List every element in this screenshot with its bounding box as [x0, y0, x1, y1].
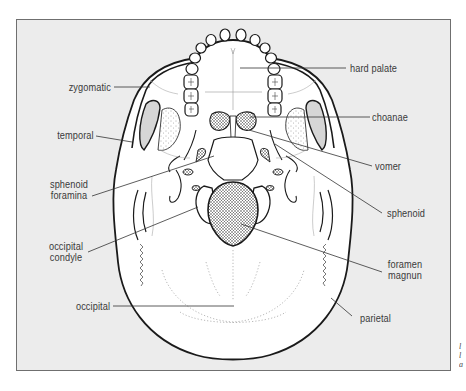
margin-caption-line: l — [459, 342, 466, 351]
label-sphenoid-foramina-line1: sphenoid — [47, 179, 91, 190]
label-hard-palate: hard palate — [350, 63, 397, 74]
label-vomer: vomer — [375, 161, 401, 172]
label-temporal: temporal — [57, 130, 94, 141]
margin-caption-fragment: l l a — [459, 342, 466, 369]
label-foramen-magnum-line1: foramen — [383, 259, 427, 270]
label-occipital: occipital — [76, 301, 110, 312]
label-sphenoid: sphenoid — [387, 208, 425, 219]
margin-caption-line: a — [459, 360, 466, 369]
label-occipital-condyle-line2: condyle — [44, 252, 88, 263]
label-foramen-magnum-line2: magnun — [383, 270, 427, 281]
label-zygomatic: zygomatic — [69, 82, 111, 93]
label-occipital-condyle-line1: occipital — [44, 241, 88, 252]
label-choanae: choanae — [372, 112, 408, 123]
basi-occiput — [208, 137, 258, 180]
label-sphenoid-foramina-line2: foramina — [47, 190, 91, 201]
label-parietal: parietal — [360, 313, 391, 324]
margin-caption-line: l — [459, 351, 466, 360]
